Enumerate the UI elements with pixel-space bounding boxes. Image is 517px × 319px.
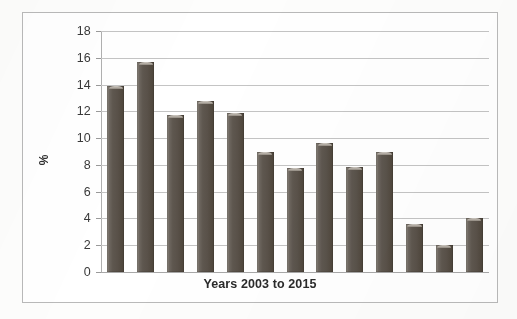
bar-cap (437, 245, 451, 248)
bar (406, 224, 423, 272)
chart-frame: % 024681012141618 Years 2003 to 2015 (22, 12, 498, 303)
y-axis-title: % (37, 155, 51, 166)
y-tick-label: 16 (65, 52, 91, 65)
x-axis-title: Years 2003 to 2015 (23, 277, 497, 291)
bar (466, 218, 483, 272)
bar (376, 152, 393, 273)
bar (137, 62, 154, 272)
bar-cap (377, 152, 391, 155)
bar (197, 101, 214, 272)
gridline (101, 111, 489, 112)
bar-cap (407, 224, 421, 227)
bar-cap (348, 167, 362, 170)
y-tick-label: 2 (65, 239, 91, 252)
gridline (101, 138, 489, 139)
y-tick-label: 6 (65, 186, 91, 199)
plot-area (101, 31, 489, 272)
bar-cap (139, 62, 153, 65)
y-tick-label: 10 (65, 132, 91, 145)
bar-cap (109, 86, 123, 89)
bar-cap (198, 101, 212, 104)
gridline (101, 272, 489, 273)
chart-screenshot: % 024681012141618 Years 2003 to 2015 (0, 0, 517, 319)
gridline (101, 85, 489, 86)
bar (107, 86, 124, 272)
gridline (101, 165, 489, 166)
bar (227, 113, 244, 272)
bar (346, 167, 363, 272)
bar (167, 115, 184, 272)
bar (257, 152, 274, 273)
bar (287, 168, 304, 272)
bar-cap (288, 168, 302, 171)
gridline (101, 58, 489, 59)
bar-cap (168, 115, 182, 118)
bar-cap (318, 143, 332, 146)
bar-cap (467, 218, 481, 221)
bar (436, 245, 453, 272)
y-tick-label: 18 (65, 25, 91, 38)
y-tick-label: 4 (65, 212, 91, 225)
y-tick-label: 8 (65, 159, 91, 172)
y-tick-label: 14 (65, 79, 91, 92)
bar-cap (228, 113, 242, 116)
y-tick-label: 12 (65, 105, 91, 118)
bar-cap (258, 152, 272, 155)
bar (316, 143, 333, 272)
gridline (101, 31, 489, 32)
